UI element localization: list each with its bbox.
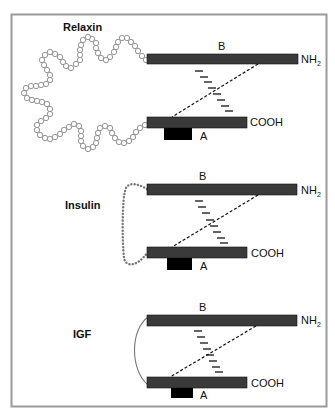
insulin-b-chain-label: B bbox=[199, 170, 206, 182]
igf-a-chain-loop-block bbox=[171, 388, 193, 398]
relaxin-a-terminus: COOH bbox=[250, 116, 283, 128]
igf-hydrogen-bonds bbox=[194, 331, 223, 372]
panel-title-insulin: Insulin bbox=[65, 199, 101, 211]
insulin-a-terminus: COOH bbox=[251, 247, 284, 259]
insulin-b-chain bbox=[147, 184, 297, 195]
igf-disulfide-bond bbox=[170, 326, 256, 377]
insulin-a-chain bbox=[147, 247, 247, 258]
relaxin-b-terminus: NH2 bbox=[301, 53, 321, 67]
relaxin-panel: Relaxin B NH2 bbox=[21, 21, 321, 152]
insulin-hydrogen-bonds bbox=[195, 201, 228, 243]
relaxin-b-chain-label: B bbox=[218, 40, 225, 52]
insulin-b-terminus: NH2 bbox=[301, 184, 321, 198]
igf-a-chain bbox=[147, 377, 247, 388]
peptide-structure-diagram: Relaxin B NH2 bbox=[0, 0, 335, 414]
igf-a-chain-label: A bbox=[200, 389, 208, 401]
igf-b-terminus: NH2 bbox=[301, 314, 321, 328]
igf-b-chain bbox=[147, 315, 297, 326]
igf-a-terminus: COOH bbox=[251, 377, 284, 389]
relaxin-a-chain-loop-block bbox=[164, 128, 192, 140]
insulin-c-peptide-loop bbox=[123, 184, 147, 264]
relaxin-connecting-peptide bbox=[21, 34, 148, 151]
insulin-panel: Insulin B NH2 COOH A bbox=[65, 170, 321, 272]
igf-b-chain-label: B bbox=[199, 301, 206, 313]
insulin-a-chain-label: A bbox=[200, 260, 208, 272]
panel-title-igf: IGF bbox=[73, 328, 92, 340]
igf-c-domain-arc bbox=[135, 317, 149, 385]
relaxin-a-chain bbox=[147, 117, 247, 128]
insulin-disulfide-bond bbox=[172, 195, 258, 247]
relaxin-a-chain-label: A bbox=[200, 130, 208, 142]
figure-border bbox=[12, 15, 327, 407]
igf-panel: IGF B NH2 COOH A bbox=[73, 301, 321, 401]
panel-title-relaxin: Relaxin bbox=[63, 21, 102, 33]
relaxin-disulfide-bond bbox=[172, 64, 258, 117]
relaxin-b-chain bbox=[147, 54, 298, 64]
insulin-a-chain-loop-block bbox=[167, 258, 192, 270]
